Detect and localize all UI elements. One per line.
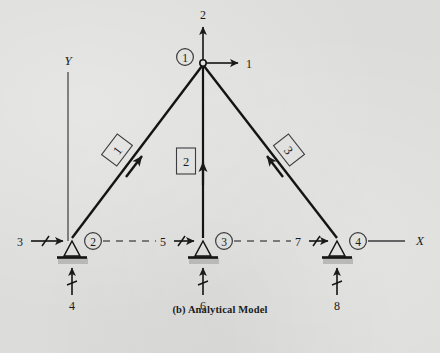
member-3-label: 3: [281, 144, 296, 158]
joint-1-number: 1: [177, 49, 194, 66]
dof-3-label: 3: [17, 235, 23, 249]
dof-2-arrow: 2: [200, 8, 206, 60]
dof-5-label: 5: [160, 235, 166, 249]
support-joint-4: [322, 241, 353, 264]
dof-2-label: 2: [200, 8, 206, 22]
dof-7-arrow: 7: [295, 235, 328, 249]
y-axis-label: Y: [64, 53, 73, 68]
dof-1-label: 1: [246, 57, 252, 71]
member-1-direction-arrow: [126, 156, 142, 177]
member-1-label: 1: [110, 144, 125, 157]
x-axis-label: X: [415, 233, 425, 248]
x-axis: X: [103, 233, 425, 248]
member-1-line: [72, 66, 202, 238]
dof-5-arrow: 5: [160, 235, 194, 249]
svg-text:1: 1: [182, 52, 188, 64]
svg-text:3: 3: [221, 236, 227, 248]
figure-page: Y X 1 2: [0, 0, 440, 353]
joint-1-hinge: [200, 60, 206, 66]
joint-4-number: 4: [350, 233, 367, 250]
y-axis: Y: [64, 53, 73, 241]
joint-3-number: 3: [216, 233, 233, 250]
svg-text:4: 4: [355, 236, 361, 248]
dof-7-label: 7: [295, 235, 301, 249]
joint-2-number: 2: [85, 233, 102, 250]
member-1-label-box: 1: [102, 134, 133, 166]
dof-3-arrow: 3: [17, 235, 63, 249]
support-joint-3: [188, 241, 219, 264]
member-3-line: [204, 66, 337, 238]
svg-text:2: 2: [90, 236, 96, 248]
member-2-label-box: 2: [177, 148, 196, 174]
support-joint-2: [57, 241, 88, 264]
member-2-label: 2: [183, 155, 189, 169]
figure-caption: (b) Analytical Model: [0, 304, 440, 315]
dof-1-arrow: 1: [206, 57, 252, 71]
analytical-model-diagram: Y X 1 2: [0, 0, 440, 353]
truss-members: [72, 66, 337, 238]
